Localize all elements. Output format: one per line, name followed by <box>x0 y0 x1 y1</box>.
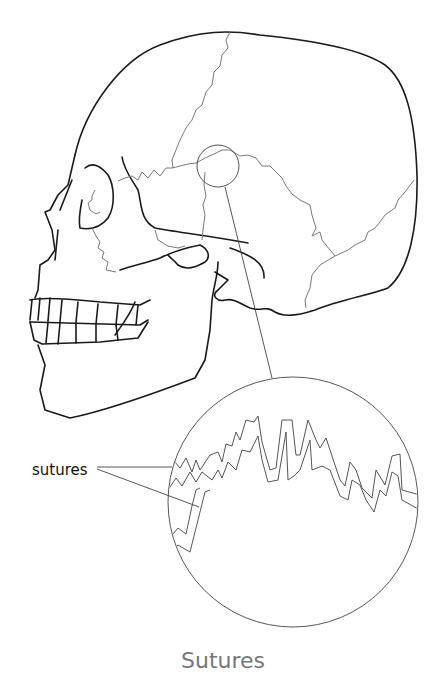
magnified-sutures <box>168 416 420 555</box>
detail-region-marker <box>197 145 239 187</box>
brow-line <box>60 180 72 210</box>
orbit-outline <box>79 165 113 229</box>
upper-teeth <box>30 298 150 325</box>
squamosal-suture <box>118 150 335 256</box>
zygomatic-suture <box>92 228 116 272</box>
mastoid <box>230 248 264 278</box>
nasal-line <box>55 230 58 260</box>
magnifier-connector <box>225 187 272 378</box>
zygomatic-arch <box>122 157 248 243</box>
skull-sutures-diagram <box>0 0 446 692</box>
callout-pointer-lower <box>97 469 199 507</box>
figure-caption: Sutures <box>0 648 446 673</box>
lambdoid-suture <box>305 180 414 308</box>
mandible <box>38 262 218 418</box>
coronal-suture <box>172 32 230 168</box>
magnified-view-circle <box>168 377 418 627</box>
face-profile <box>35 155 75 298</box>
orbit-inner-suture <box>88 190 100 214</box>
sutures-callout-label: sutures <box>32 461 88 479</box>
cheek-lower <box>120 245 208 270</box>
